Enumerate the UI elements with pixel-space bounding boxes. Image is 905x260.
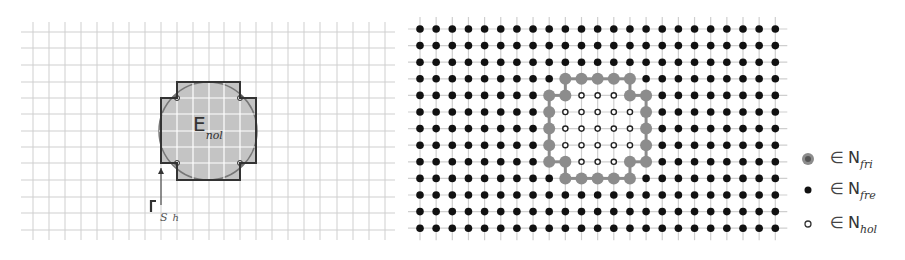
- frontier-node: [640, 89, 652, 101]
- free-node: [449, 191, 457, 199]
- free-node: [416, 25, 424, 33]
- free-node: [755, 175, 763, 183]
- free-node: [691, 75, 699, 83]
- free-node: [626, 42, 634, 50]
- free-node: [723, 191, 731, 199]
- free-node: [416, 125, 424, 133]
- free-node: [432, 25, 440, 33]
- free-node: [723, 25, 731, 33]
- free-node: [562, 224, 570, 232]
- free-node: [772, 158, 780, 166]
- free-node: [626, 224, 634, 232]
- free-node: [755, 125, 763, 133]
- legend-item-free: ∈Nfre: [800, 178, 876, 202]
- free-node: [772, 175, 780, 183]
- free-node: [545, 75, 553, 83]
- free-node: [432, 42, 440, 50]
- free-node: [594, 42, 602, 50]
- free-node: [723, 125, 731, 133]
- free-node: [772, 75, 780, 83]
- free-node: [513, 158, 521, 166]
- hollow-node: [611, 159, 616, 164]
- free-node: [529, 108, 537, 116]
- hollow-node: [627, 126, 632, 131]
- free-node: [529, 224, 537, 232]
- free-node: [416, 208, 424, 216]
- free-node: [481, 224, 489, 232]
- free-node: [707, 42, 715, 50]
- region-label: Enol: [193, 112, 223, 142]
- free-node: [658, 158, 666, 166]
- free-node: [432, 158, 440, 166]
- set-subscript: fre: [860, 189, 876, 202]
- free-node: [658, 25, 666, 33]
- free-node: [513, 92, 521, 100]
- free-node: [416, 42, 424, 50]
- free-node: [723, 175, 731, 183]
- free-node: [691, 191, 699, 199]
- free-node: [739, 108, 747, 116]
- free-node: [626, 191, 634, 199]
- free-node: [529, 75, 537, 83]
- free-node: [578, 25, 586, 33]
- set-subscript: hol: [860, 223, 877, 236]
- free-node: [707, 92, 715, 100]
- free-node: [723, 42, 731, 50]
- free-node: [529, 141, 537, 149]
- boundary-label-main: S: [160, 211, 168, 224]
- free-node: [675, 92, 683, 100]
- free-node: [497, 92, 505, 100]
- hollow-node: [579, 159, 584, 164]
- legend-item-frontier: ∈Nfri: [800, 147, 873, 171]
- hollow-node-icon: [800, 216, 816, 232]
- hollow-node: [579, 93, 584, 98]
- free-node: [529, 58, 537, 66]
- free-node: [513, 224, 521, 232]
- free-node: [481, 125, 489, 133]
- free-node: [432, 224, 440, 232]
- free-node: [707, 108, 715, 116]
- free-node: [658, 58, 666, 66]
- frontier-node: [559, 89, 571, 101]
- free-node: [497, 175, 505, 183]
- free-node: [739, 92, 747, 100]
- hollow-node: [563, 143, 568, 148]
- free-node: [723, 224, 731, 232]
- free-node: [416, 108, 424, 116]
- free-node: [675, 224, 683, 232]
- free-node: [481, 208, 489, 216]
- boundary-label-sub: h: [173, 212, 179, 223]
- free-node: [691, 92, 699, 100]
- free-node: [465, 208, 473, 216]
- free-node: [545, 208, 553, 216]
- frontier-node: [624, 172, 636, 184]
- free-node: [658, 108, 666, 116]
- free-node: [658, 42, 666, 50]
- frontier-node: [624, 73, 636, 85]
- free-node: [755, 224, 763, 232]
- free-node: [465, 224, 473, 232]
- frontier-node: [576, 73, 588, 85]
- frontier-node: [543, 139, 555, 151]
- free-node: [432, 75, 440, 83]
- free-node: [449, 224, 457, 232]
- free-node: [755, 42, 763, 50]
- frontier-node: [640, 123, 652, 135]
- free-node: [675, 108, 683, 116]
- free-node: [513, 42, 521, 50]
- free-node: [578, 42, 586, 50]
- free-node: [481, 108, 489, 116]
- free-node: [497, 75, 505, 83]
- frontier-node: [608, 172, 620, 184]
- free-node: [449, 125, 457, 133]
- free-node: [642, 75, 650, 83]
- free-node: [658, 224, 666, 232]
- free-node: [739, 125, 747, 133]
- free-node: [529, 92, 537, 100]
- free-node: [432, 108, 440, 116]
- free-node: [691, 208, 699, 216]
- hollow-node: [595, 109, 600, 114]
- free-node: [578, 224, 586, 232]
- set-subscript: fri: [860, 158, 873, 171]
- free-node: [529, 158, 537, 166]
